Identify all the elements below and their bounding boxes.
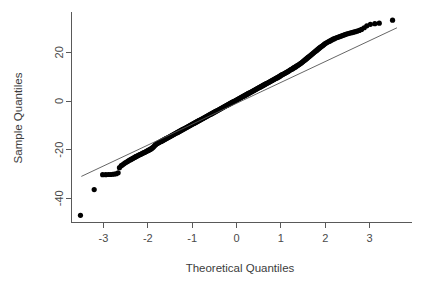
- qq-plot-figure: -3-2-10123 200-20-40 Theoretical Quantil…: [0, 0, 427, 289]
- x-axis-tick-label: 1: [278, 232, 284, 244]
- data-point: [368, 22, 373, 27]
- x-axis-tick-label: -1: [187, 232, 197, 244]
- data-point: [78, 213, 83, 218]
- y-axis-group: 200-20-40: [53, 12, 71, 223]
- x-axis-tick-label: 3: [366, 232, 372, 244]
- x-axis-tick-label: -2: [143, 232, 153, 244]
- x-axis-tick-label: 0: [233, 232, 239, 244]
- x-axis-title: Theoretical Quantiles: [186, 262, 295, 274]
- data-point: [372, 21, 377, 26]
- data-point: [116, 170, 121, 175]
- x-axis-tick-label: -3: [99, 232, 109, 244]
- x-axis-group: -3-2-10123: [71, 223, 412, 244]
- y-axis-title: Sample Quantiles: [12, 72, 24, 163]
- data-point: [390, 18, 395, 23]
- y-axis-tick-label: 20: [53, 46, 65, 58]
- y-axis-tick-label: -40: [53, 190, 65, 206]
- qq-reference-line: [81, 28, 397, 177]
- data-point-layer: [78, 18, 395, 218]
- x-axis-tick-label: 2: [322, 232, 328, 244]
- y-axis-tick-label: -20: [53, 142, 65, 158]
- qq-plot-canvas: -3-2-10123 200-20-40 Theoretical Quantil…: [0, 0, 427, 289]
- data-point: [377, 21, 382, 26]
- data-point: [92, 187, 97, 192]
- y-axis-tick-label: 0: [53, 98, 65, 104]
